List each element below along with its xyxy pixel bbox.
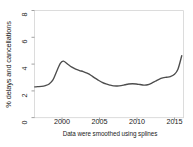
plot-svg <box>34 10 184 118</box>
plot-frame <box>35 11 184 119</box>
chart-figure: % delays and cancellations 8 6 4 2 0 <box>0 0 193 147</box>
x-tick-label-2015: 2015 <box>158 118 192 125</box>
x-tick-label-2000: 2000 <box>45 118 79 125</box>
y-tick-label-4: 4 <box>18 64 32 74</box>
y-axis-title-text: % delays and cancellations <box>4 21 13 108</box>
series-line-delays <box>35 56 182 87</box>
y-tick-label-6: 6 <box>18 37 32 47</box>
x-tick-label-2010: 2010 <box>120 118 154 125</box>
y-axis-title: % delays and cancellations <box>0 0 17 128</box>
plot-area <box>34 10 184 118</box>
y-tick-label-0: 0 <box>18 118 32 128</box>
y-tick-label-2: 2 <box>18 91 32 101</box>
chart-note: Data were smoothed using splines <box>34 130 186 137</box>
y-tick-label-8: 8 <box>18 10 32 20</box>
x-tick-label-2005: 2005 <box>83 118 117 125</box>
